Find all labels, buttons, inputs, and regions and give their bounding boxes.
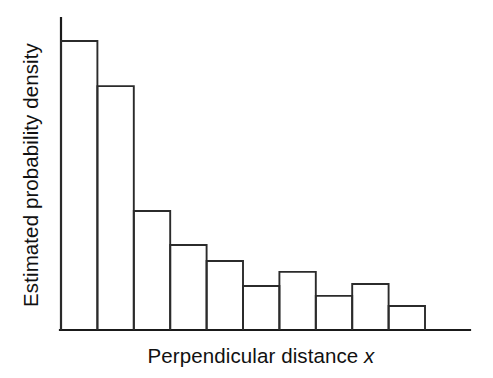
x-axis-label-variable: x bbox=[363, 344, 375, 367]
figure-background bbox=[0, 0, 493, 378]
x-axis-label: Perpendicular distance x bbox=[148, 344, 376, 367]
y-axis-label: Estimated probability density bbox=[19, 42, 42, 306]
x-axis-label-group: Perpendicular distance x bbox=[148, 344, 376, 367]
x-axis-label-main: Perpendicular distance bbox=[148, 344, 359, 367]
histogram-figure: Estimated probability density Perpendicu… bbox=[0, 0, 493, 378]
chart-canvas: Estimated probability density Perpendicu… bbox=[0, 0, 493, 378]
y-axis-label-group: Estimated probability density bbox=[19, 42, 42, 306]
